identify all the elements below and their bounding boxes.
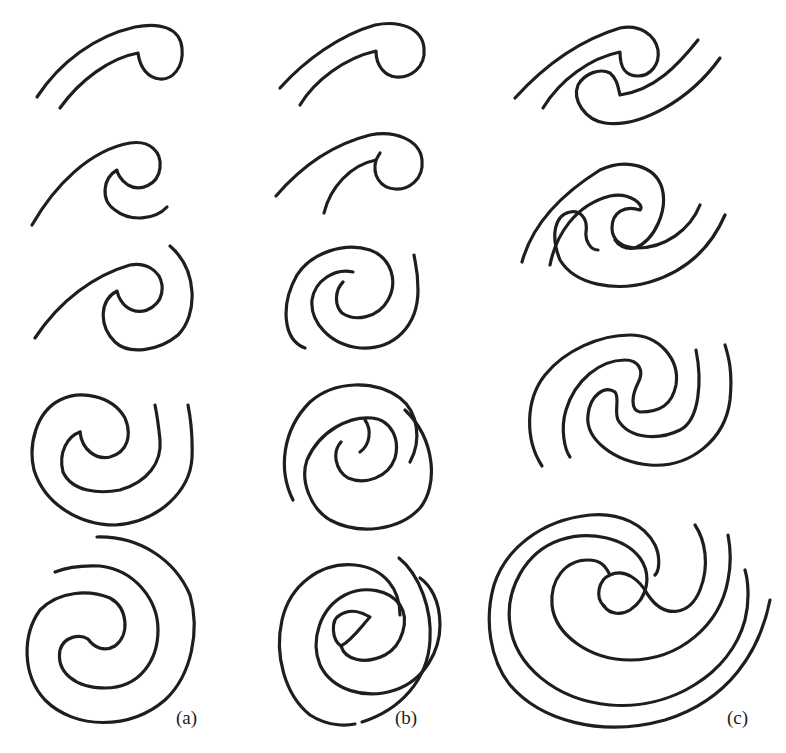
- spiral-c4: [489, 515, 770, 728]
- spiral-figure: [0, 0, 786, 753]
- spiral-c2: [522, 164, 725, 286]
- spiral-a5: [27, 537, 194, 723]
- panel-label-a: (a): [176, 707, 197, 729]
- spiral-b1: [280, 24, 424, 105]
- spiral-a2: [32, 143, 167, 225]
- spiral-c3: [530, 335, 731, 466]
- spiral-b3: [286, 247, 418, 348]
- spiral-a1: [37, 25, 182, 108]
- column-a: [27, 25, 194, 722]
- column-c: [489, 27, 770, 727]
- spiral-b4: [284, 385, 431, 529]
- spiral-c1: [515, 27, 720, 123]
- spiral-b5: [279, 558, 440, 725]
- panel-label-b: (b): [395, 707, 417, 729]
- panel-label-c: (c): [727, 707, 748, 729]
- spiral-a4: [32, 395, 192, 525]
- column-b: [276, 24, 440, 725]
- spiral-a3: [35, 246, 192, 350]
- spiral-b2: [276, 134, 422, 213]
